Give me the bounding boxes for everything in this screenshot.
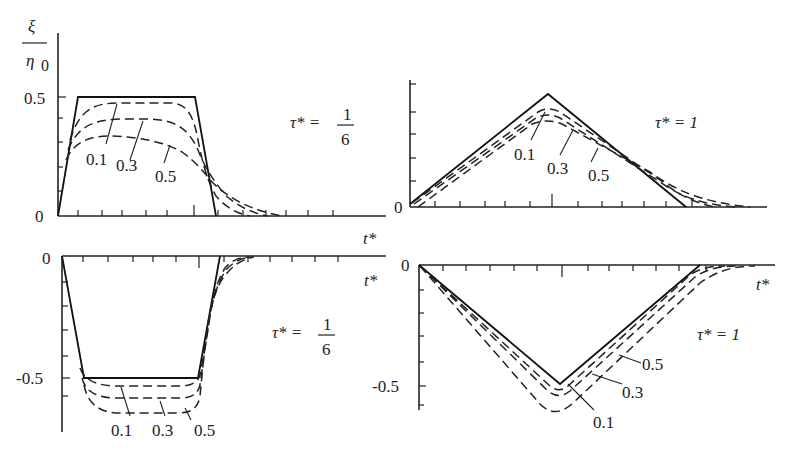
tau-label: τ* = [290,113,320,132]
y-tick-label-neg-0.5: -0.5 [16,369,43,388]
tau-label: τ* = 1 [655,113,698,132]
curve-label-0.1: 0.1 [86,150,107,169]
tau-denominator: 6 [341,130,350,149]
x-axis-label: t* [363,229,377,248]
curve-label-0.5: 0.5 [194,421,215,440]
figure: ξ η 0 0.5 0 t* 0. [0,0,793,463]
curve-label-0.1: 0.1 [111,421,132,440]
y-tick-label-0: 0 [42,249,51,268]
reference-curve [62,256,220,378]
y-axis-label: ξ η 0 [22,17,49,74]
panel-bottom-left: 0 -0.5 t* 0.1 0.3 0.5 τ* = 1 6 [16,249,386,440]
curve-0.5 [420,266,725,390]
panel-top-right: 0 0.1 0.3 0.5 τ* = 1 [394,80,767,217]
y-label-subscript: 0 [41,57,49,74]
x-axis-label: t* [364,271,378,290]
panel-top-left: 0.5 0 t* 0.1 0.3 0.5 τ* = 1 6 [24,33,386,248]
y-tick-label-0: 0 [35,207,44,226]
curve-label-0.3: 0.3 [547,159,568,178]
curve-label-0.5: 0.5 [588,166,609,185]
tau-label: τ* = 1 [697,325,740,344]
y-label-numerator: ξ [28,17,36,36]
tau-denominator: 6 [322,340,331,359]
curve-0.3 [82,257,252,398]
tau-numerator: 1 [343,105,352,124]
y-tick-label-0: 0 [401,256,410,275]
tau-label: τ* = [272,323,302,342]
curve-label-0.1: 0.1 [514,145,535,164]
tau-numerator: 1 [323,315,332,334]
curve-label-0.1: 0.1 [593,413,614,432]
curve-0.5 [84,257,254,413]
y-tick-label-0.5: 0.5 [24,89,45,108]
y-label-denominator: η [26,51,34,70]
curve-label-0.5: 0.5 [155,167,176,186]
curve-0.1 [80,257,250,386]
x-axis-label: t* [756,275,770,294]
curve-label-0.3: 0.3 [622,383,643,402]
y-tick-label-0: 0 [394,198,403,217]
curve-label-0.3: 0.3 [152,421,173,440]
panel-bottom-right: 0 -0.5 t* 0.5 0.3 0.1 τ* = 1 [372,256,775,432]
y-tick-label-neg-0.5: -0.5 [372,377,399,396]
curve-label-0.5: 0.5 [642,355,663,374]
curve-label-0.3: 0.3 [116,156,137,175]
reference-curve [410,94,686,207]
